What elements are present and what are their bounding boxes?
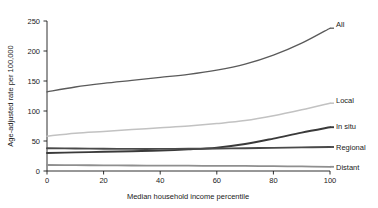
series-label-all: All <box>336 20 345 29</box>
x-tick-label-80: 80 <box>269 176 277 185</box>
x-tick-label-100: 100 <box>324 176 337 185</box>
series-label-in-situ: In situ <box>336 122 356 131</box>
y-tick-label-150: 150 <box>27 77 40 86</box>
y-axis-title: Age-adjusted rate per 100,000 <box>6 45 15 146</box>
x-tick-label-40: 40 <box>156 176 164 185</box>
x-axis-title: Median household income percentile <box>127 192 249 201</box>
y-tick-label-0: 0 <box>36 167 40 176</box>
series-layer <box>47 28 334 167</box>
series-line-distant <box>47 165 330 167</box>
series-label-distant: Distant <box>336 163 360 172</box>
series-line-regional <box>47 147 330 149</box>
x-tick-label-20: 20 <box>99 176 107 185</box>
y-tick-label-200: 200 <box>27 47 40 56</box>
chart-container: 0 50 100 150 200 250 0 20 40 60 80 100 M… <box>0 0 378 208</box>
y-tick-label-50: 50 <box>32 137 40 146</box>
x-axis-ticks <box>47 171 330 175</box>
series-line-all <box>47 28 330 92</box>
y-tick-label-250: 250 <box>27 17 40 26</box>
line-chart: 0 50 100 150 200 250 0 20 40 60 80 100 M… <box>0 0 378 208</box>
series-label-regional: Regional <box>336 143 366 152</box>
y-tick-label-100: 100 <box>27 107 40 116</box>
series-label-local: Local <box>336 96 354 105</box>
x-tick-label-0: 0 <box>45 176 49 185</box>
series-line-local <box>47 103 330 136</box>
x-tick-label-60: 60 <box>213 176 221 185</box>
